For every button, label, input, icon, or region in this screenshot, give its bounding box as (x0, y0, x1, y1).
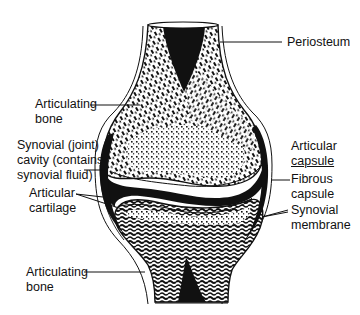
label-fibrous-capsule-line-2: capsule (291, 187, 334, 202)
label-periosteum-line-1: Periosteum (287, 35, 350, 50)
synovial-joint-diagram: Periosteum Articulating bone Synovial (j… (0, 0, 360, 315)
label-articular-cartilage: Articular cartilage (29, 186, 76, 216)
label-articular-cartilage-line-2: cartilage (29, 201, 76, 216)
lower-articulating-bone (115, 199, 263, 303)
upper-articulating-bone (103, 22, 262, 186)
label-articular-cartilage-line-1: Articular (29, 186, 76, 201)
label-articulating-bone-lower-line-1: Articulating (26, 265, 88, 280)
label-synovial-cavity-line-2: cavity (contains (17, 153, 103, 168)
label-synovial-membrane-line-2: membrane (291, 218, 351, 233)
label-fibrous-capsule-line-1: Fibrous (291, 172, 334, 187)
label-articular-capsule-line-2: capsule (291, 154, 337, 169)
label-articular-capsule: Articular capsule (291, 139, 337, 169)
label-synovial-cavity: Synovial (joint) cavity (contains synovi… (17, 138, 103, 183)
label-articulating-bone-upper-line-1: Articulating (35, 97, 97, 112)
label-articular-capsule-line-1: Articular (291, 139, 337, 154)
label-synovial-membrane-line-1: Synovial (291, 203, 351, 218)
label-articulating-bone-lower: Articulating bone (26, 265, 88, 295)
label-articulating-bone-lower-line-2: bone (26, 280, 88, 295)
label-fibrous-capsule: Fibrous capsule (291, 172, 334, 202)
label-synovial-membrane: Synovial membrane (291, 203, 351, 233)
label-synovial-cavity-line-3: synovial fluid) (17, 168, 103, 183)
label-periosteum: Periosteum (287, 35, 350, 50)
label-synovial-cavity-line-1: Synovial (joint) (17, 138, 103, 153)
label-articulating-bone-upper: Articulating bone (35, 97, 97, 127)
label-articulating-bone-upper-line-2: bone (35, 112, 97, 127)
